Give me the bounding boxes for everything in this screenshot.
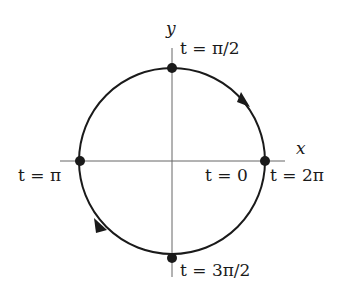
label-bottom: t = 3π/2 xyxy=(180,262,250,279)
label-left: t = π xyxy=(18,167,61,184)
label-right-zero: t = 0 xyxy=(205,167,248,184)
x-axis-label: x xyxy=(296,140,306,157)
point-bottom xyxy=(167,253,177,263)
direction-arrow-icon xyxy=(237,92,250,107)
point-left xyxy=(75,156,85,166)
point-right xyxy=(260,156,270,166)
y-axis-label: y xyxy=(166,20,176,37)
point-top xyxy=(167,63,177,73)
label-right-two-pi: t = 2π xyxy=(270,167,324,184)
label-top: t = π/2 xyxy=(180,40,240,57)
